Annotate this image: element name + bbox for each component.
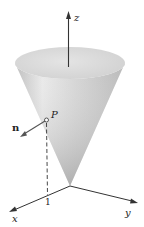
z-axis-label: z — [73, 12, 80, 23]
y-axis-label: y — [124, 207, 131, 218]
cone-surface — [15, 63, 125, 186]
x-axis-label: x — [12, 213, 18, 224]
normal-vector-arrow — [20, 121, 45, 137]
point-p-marker — [45, 118, 49, 122]
normal-label: n — [12, 122, 20, 133]
point-p-label: P — [50, 109, 58, 120]
tick-label-1: 1 — [45, 197, 51, 207]
cone-diagram: z x y 1 n P — [0, 0, 144, 227]
y-axis — [70, 186, 138, 204]
x-axis — [9, 186, 70, 212]
cone-figure: z x y 1 n P — [0, 0, 144, 227]
cone-top-face — [15, 47, 125, 79]
